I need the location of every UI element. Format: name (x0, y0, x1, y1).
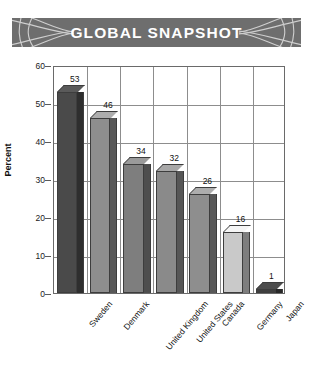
bar-side-face (110, 118, 117, 293)
bar-value-label: 53 (70, 74, 79, 84)
bar-side-face (243, 232, 250, 293)
bar[interactable] (156, 171, 177, 293)
x-axis-category-label: Sweden (87, 299, 114, 329)
bar-value-label: 16 (236, 214, 245, 224)
category-separator (87, 67, 88, 293)
bar-front-face (123, 164, 144, 293)
category-separator (120, 67, 121, 293)
category-separator (187, 67, 188, 293)
bar-top-face (156, 164, 184, 171)
y-axis-tick-label: 40 (23, 137, 45, 147)
y-axis-tick-label: 0 (23, 289, 45, 299)
bar-front-face (256, 289, 277, 293)
y-axis-tick-mark (45, 142, 51, 143)
bar-chart: Percent 0102030405060 5346343226161 Swed… (0, 47, 313, 389)
x-axis-category-label: Japan (283, 299, 306, 323)
y-axis-tick-mark (45, 218, 51, 219)
bar-front-face (90, 118, 111, 293)
y-axis-tick-label: 50 (23, 99, 45, 109)
bar-side-face (210, 194, 217, 293)
bar-top-face (256, 282, 284, 289)
bar-top-face (223, 225, 251, 232)
bar-front-face (156, 171, 177, 293)
y-axis-tick-mark (45, 180, 51, 181)
bar[interactable] (223, 232, 244, 293)
bar-side-face (177, 171, 184, 293)
y-axis-tick-mark (45, 104, 51, 105)
bar-front-face (189, 194, 210, 293)
plot-area: 5346343226161 (53, 66, 285, 294)
category-separator (153, 67, 154, 293)
y-axis-tick-mark (45, 66, 51, 67)
y-axis-title: Percent (3, 143, 13, 176)
y-axis-tick-label: 20 (23, 213, 45, 223)
y-axis-tick-label: 10 (23, 251, 45, 261)
y-axis-tick-mark (45, 256, 51, 257)
bar-side-face (77, 92, 84, 293)
bar-top-face (123, 157, 151, 164)
bar-front-face (57, 92, 78, 293)
bar-value-label: 32 (170, 153, 179, 163)
y-axis-tick-mark (45, 294, 51, 295)
y-axis-tick-labels: 0102030405060 (19, 66, 45, 294)
category-separator (220, 67, 221, 293)
header-banner: GLOBAL SNAPSHOT (12, 18, 301, 47)
bar-value-label: 46 (103, 100, 112, 110)
x-axis-category-label: Germany (254, 299, 284, 332)
bar[interactable] (189, 194, 210, 293)
bar[interactable] (123, 164, 144, 293)
y-axis-tick-label: 30 (23, 175, 45, 185)
bar[interactable] (256, 289, 277, 293)
page-title: GLOBAL SNAPSHOT (12, 18, 301, 47)
bar-value-label: 26 (203, 176, 212, 186)
bar-value-label: 34 (136, 146, 145, 156)
bar-front-face (223, 232, 244, 293)
bar[interactable] (90, 118, 111, 293)
bar-top-face (189, 187, 217, 194)
bar-side-face (276, 289, 283, 293)
y-axis-tick-label: 60 (23, 61, 45, 71)
bar-top-face (90, 111, 118, 118)
bar-side-face (144, 164, 151, 293)
bar-top-face (57, 85, 85, 92)
bar[interactable] (57, 92, 78, 293)
gridline (54, 143, 284, 144)
category-separator (253, 67, 254, 293)
bar-value-label: 1 (269, 271, 274, 281)
x-axis-category-label: Denmark (122, 299, 152, 332)
gridline (54, 105, 284, 106)
